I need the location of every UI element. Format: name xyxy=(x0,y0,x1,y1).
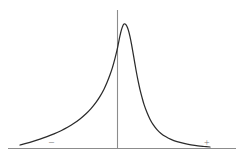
skewed-distribution-figure: – + xyxy=(0,0,244,160)
negative-sign-label: – xyxy=(49,137,54,147)
distribution-curve xyxy=(20,24,210,147)
positive-sign-label: + xyxy=(204,138,210,148)
distribution-chart-canvas xyxy=(0,0,244,160)
